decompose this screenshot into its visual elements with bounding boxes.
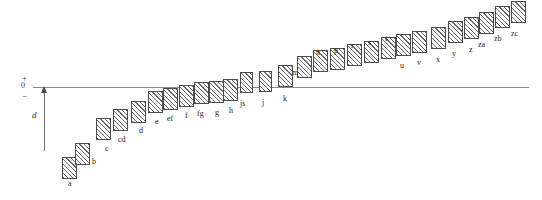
data-mark-label: p xyxy=(334,47,338,55)
data-mark xyxy=(240,72,253,93)
data-mark-label: zc xyxy=(511,30,518,38)
data-mark xyxy=(209,81,224,103)
data-mark xyxy=(75,143,90,165)
data-mark xyxy=(347,44,362,66)
data-mark-label: c xyxy=(105,145,109,153)
data-mark xyxy=(96,118,111,140)
data-mark xyxy=(194,82,209,104)
data-mark-label: a xyxy=(68,180,72,188)
data-mark-label: u xyxy=(400,62,404,70)
dimension-arrow-icon xyxy=(41,86,47,93)
data-mark-label: za xyxy=(478,41,485,49)
data-mark-label: js xyxy=(240,100,245,108)
data-mark-label: x xyxy=(436,56,440,64)
data-mark-label: m xyxy=(292,69,298,77)
data-mark xyxy=(396,34,411,56)
data-mark xyxy=(381,37,396,59)
data-mark-label: y xyxy=(452,50,456,58)
data-mark xyxy=(163,88,178,110)
data-mark-label: d xyxy=(139,127,143,135)
data-mark xyxy=(113,109,128,131)
axis-zero-label: 0 xyxy=(21,82,25,90)
data-mark xyxy=(259,71,272,92)
data-mark xyxy=(278,65,293,87)
data-mark-label: f xyxy=(185,112,188,120)
axis-minus-label: − xyxy=(22,92,27,101)
data-mark-label: e xyxy=(155,118,159,126)
data-mark-label: zb xyxy=(494,35,502,43)
data-mark xyxy=(364,41,379,63)
data-mark-label: cd xyxy=(118,136,126,144)
data-mark-label: ef xyxy=(167,115,173,123)
data-mark xyxy=(223,79,238,101)
data-mark xyxy=(448,21,463,43)
data-mark xyxy=(179,85,194,107)
data-mark-label: h xyxy=(229,107,233,115)
data-mark-label: k xyxy=(283,95,287,103)
data-mark xyxy=(511,1,526,23)
zero-axis-line xyxy=(33,87,529,88)
data-mark xyxy=(479,12,494,34)
data-mark-label: n xyxy=(316,49,320,57)
data-mark-label: s xyxy=(368,39,371,47)
scatter-step-figure: + 0 − d abccddeefffgghjsjkmnprstuvxyzzaz… xyxy=(0,0,542,200)
data-mark-label: t xyxy=(385,35,387,43)
data-mark xyxy=(148,91,163,113)
dimension-label: d xyxy=(32,110,37,120)
data-mark-label: j xyxy=(262,99,264,107)
data-mark-label: b xyxy=(92,158,96,166)
data-mark xyxy=(495,6,510,28)
data-mark-label: r xyxy=(351,42,354,50)
data-mark-label: z xyxy=(469,46,473,54)
data-mark xyxy=(412,31,427,53)
data-mark xyxy=(297,56,312,78)
data-mark-label: v xyxy=(417,59,421,67)
dimension-line xyxy=(44,88,45,151)
data-mark-label: g xyxy=(215,109,219,117)
data-mark xyxy=(131,101,146,123)
data-mark-label: fg xyxy=(197,110,204,118)
data-mark xyxy=(431,27,446,49)
data-mark xyxy=(464,17,479,39)
